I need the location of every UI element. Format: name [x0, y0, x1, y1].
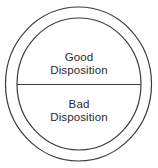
diagram-canvas: [0, 0, 158, 168]
disposition-circle-diagram: Good Disposition Bad Disposition: [0, 0, 158, 168]
